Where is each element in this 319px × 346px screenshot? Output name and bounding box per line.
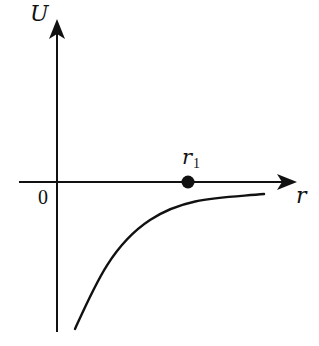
potential-energy-diagram: U r 0 r1: [0, 0, 319, 346]
point-label-subscript: 1: [193, 156, 200, 171]
point-r1: [182, 176, 195, 189]
point-label: r1: [182, 145, 200, 171]
y-axis-label: U: [30, 1, 50, 26]
origin-label: 0: [38, 186, 48, 208]
x-axis: [19, 174, 297, 190]
x-axis-label: r: [296, 183, 308, 208]
y-axis: [49, 19, 65, 332]
potential-curve: [75, 194, 264, 329]
